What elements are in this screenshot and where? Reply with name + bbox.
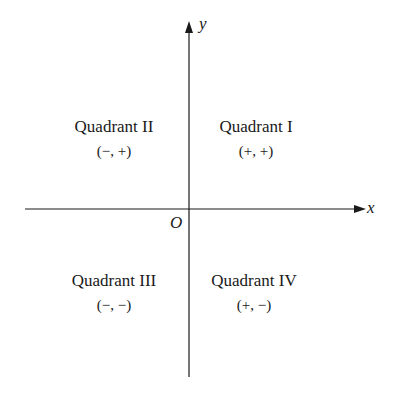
origin-label: O bbox=[170, 213, 182, 233]
quadrant-i-name: Quadrant I bbox=[196, 117, 316, 137]
quadrant-ii-name: Quadrant II bbox=[54, 117, 174, 137]
quadrant-i-signs: (+, +) bbox=[196, 143, 316, 160]
x-axis-arrow-icon bbox=[354, 205, 366, 213]
quadrant-iv-name: Quadrant IV bbox=[192, 271, 316, 291]
quadrant-ii: Quadrant II (−, +) bbox=[54, 117, 174, 160]
quadrant-iii-signs: (−, −) bbox=[52, 297, 176, 314]
quadrant-ii-signs: (−, +) bbox=[54, 143, 174, 160]
axes-drawing bbox=[0, 0, 400, 397]
y-axis-label: y bbox=[199, 14, 207, 34]
quadrant-iv: Quadrant IV (+, −) bbox=[192, 271, 316, 314]
x-axis-label: x bbox=[367, 198, 375, 218]
quadrant-iii: Quadrant III (−, −) bbox=[52, 271, 176, 314]
y-axis-arrow-icon bbox=[185, 21, 193, 33]
quadrant-i: Quadrant I (+, +) bbox=[196, 117, 316, 160]
quadrant-iv-signs: (+, −) bbox=[192, 297, 316, 314]
quadrant-iii-name: Quadrant III bbox=[52, 271, 176, 291]
